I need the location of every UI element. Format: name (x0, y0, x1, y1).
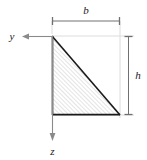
y-axis-label: y (9, 30, 15, 42)
dimension-label-b: b (83, 4, 89, 16)
y-axis: y (9, 30, 52, 42)
dimension-height-h: h (125, 36, 142, 115)
figure-canvas: b h y z (0, 0, 147, 160)
cross-section-figure: b h y z (0, 0, 147, 160)
z-axis-arrowhead (50, 133, 56, 141)
triangle-section (52, 36, 120, 115)
y-axis-arrowhead (22, 34, 29, 40)
dimension-label-h: h (135, 69, 141, 81)
z-axis-label: z (49, 145, 55, 157)
dimension-width-b: b (52, 4, 120, 25)
